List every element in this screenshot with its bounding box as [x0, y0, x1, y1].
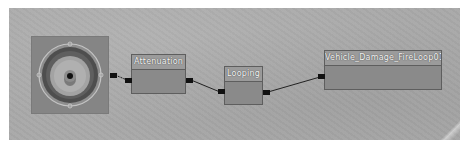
node-attenuation[interactable]: Attenuation — [131, 54, 186, 94]
sound-output-node[interactable] — [31, 36, 109, 114]
attenuation-input-pin[interactable] — [186, 78, 193, 83]
attenuation-output-pin[interactable] — [125, 78, 132, 83]
node-sound-wave[interactable]: Vehicle_Damage_FireLoop01 — [324, 50, 442, 90]
looping-input-pin[interactable] — [263, 90, 270, 95]
output-node-input-pin[interactable] — [110, 73, 117, 78]
looping-output-pin[interactable] — [218, 89, 225, 94]
node-title: Attenuation — [132, 55, 185, 70]
node-title: Vehicle_Damage_FireLoop01 — [325, 51, 441, 66]
node-title: Looping — [225, 67, 262, 82]
node-looping[interactable]: Looping — [224, 66, 263, 105]
wave-output-pin[interactable] — [318, 74, 325, 79]
speaker-icon — [31, 36, 109, 114]
